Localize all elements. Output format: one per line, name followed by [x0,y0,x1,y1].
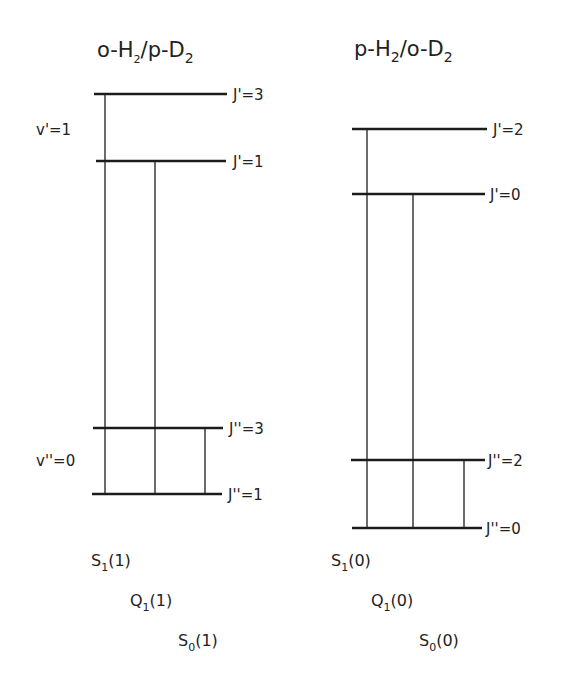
transition-label-s0-0: S0(0) [419,631,459,654]
transition-label-q1-0: Q1(0) [371,591,413,614]
level-label: J'=2 [492,121,524,139]
right-panel-para-h2-ortho-d2: p-H2/o-D2 J'=2 J'=0 J''=2 J''=0 S1(0) Q1… [331,37,524,654]
transition-label-s1-1: S1(1) [91,551,131,574]
level-label: J'=0 [489,186,521,204]
right-panel-title: p-H2/o-D2 [354,37,453,65]
vibrational-label-v0: v''=0 [36,452,75,470]
level-label: J''=0 [485,520,521,538]
level-label: J''=2 [487,452,523,470]
vibrational-label-v1: v'=1 [36,121,71,139]
transition-label-s0-1: S0(1) [178,631,218,654]
left-panel-ortho-h2-para-d2: o-H2/p-D2 v'=1 v''=0 J'=3 J'=1 J''=3 J''… [36,38,264,654]
left-panel-title: o-H2/p-D2 [97,38,194,66]
level-label: J'=3 [232,86,264,104]
level-label: J'=1 [232,153,264,171]
transition-label-q1-1: Q1(1) [130,591,172,614]
transition-label-s1-0: S1(0) [331,551,371,574]
level-label: J''=3 [228,420,264,438]
level-label: J''=1 [227,486,263,504]
energy-level-diagram: o-H2/p-D2 v'=1 v''=0 J'=3 J'=1 J''=3 J''… [0,0,563,687]
